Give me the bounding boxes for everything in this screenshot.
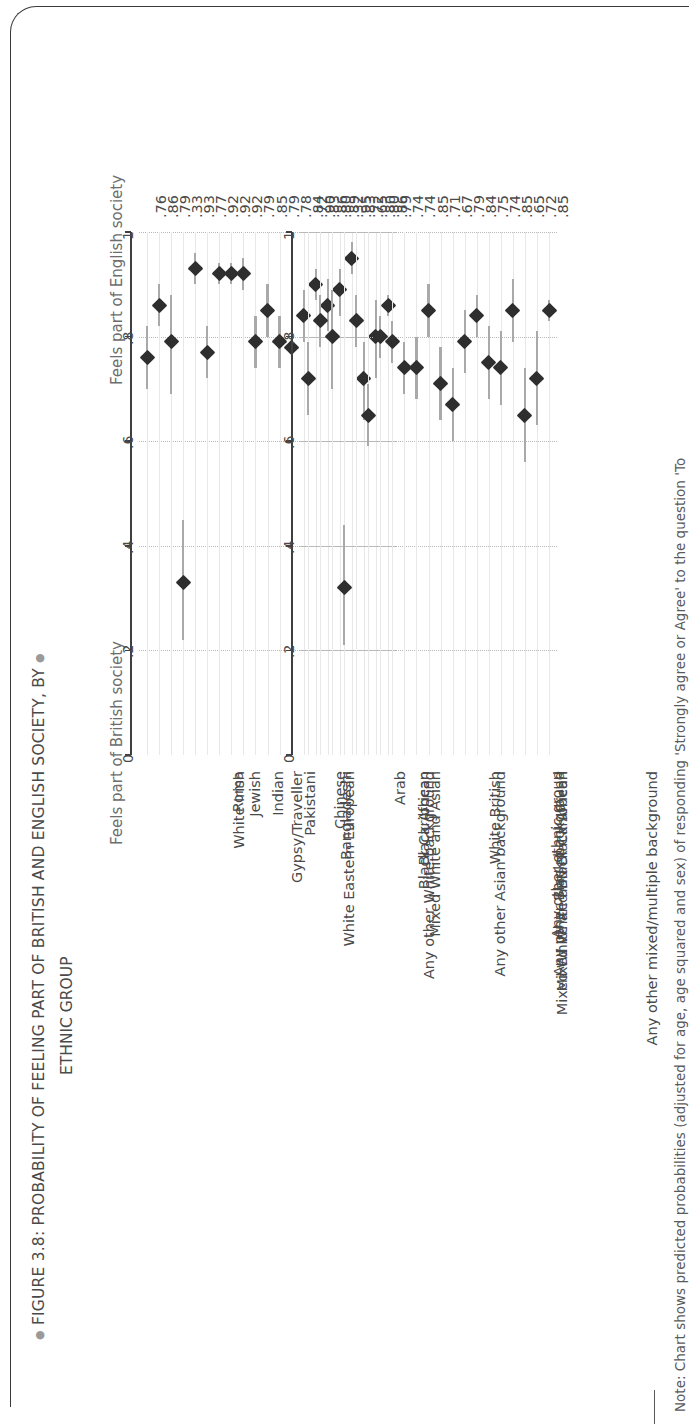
category-label: Indian [270,771,286,816]
category-label: White British [487,771,503,864]
category-label: Roma [230,771,246,812]
category-label: Pakistani [302,771,318,836]
category-label: Black African [416,771,432,865]
category-label: Chinese [331,771,347,829]
category-label: Jewish [247,771,263,817]
category-label: Arab [392,771,408,805]
figure-note: Note: Chart shows predicted probabilitie… [672,458,688,1412]
category-label: Any other ethnic group [549,771,565,938]
category-label: Any other mixed/multiple background [644,771,660,1045]
